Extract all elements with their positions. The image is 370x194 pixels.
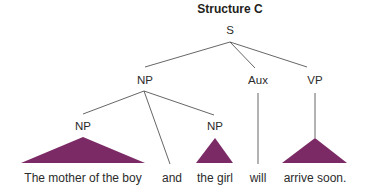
node-vp: VP [307, 74, 323, 86]
triangle-np-right [196, 138, 233, 163]
node-np-left: NP [75, 120, 91, 132]
triangle-vp [282, 138, 347, 163]
edge-np-np-right [144, 91, 214, 115]
edge-s-np [145, 42, 230, 67]
word-np-right: the girl [197, 171, 233, 185]
syntax-tree-diagram: Structure C S NP Aux VP NP NP The mother… [0, 0, 370, 194]
triangle-np-left [21, 137, 145, 163]
word-vp: arrive soon. [284, 171, 347, 185]
edge-np-and [144, 91, 170, 164]
node-s: S [226, 24, 234, 36]
diagram-title: Structure C [197, 2, 263, 16]
word-and: and [162, 171, 182, 185]
edge-np-np-left [83, 91, 144, 114]
word-np-left: The mother of the boy [24, 171, 141, 185]
node-np-right: NP [207, 120, 223, 132]
node-aux: Aux [248, 74, 268, 86]
node-np-main: NP [137, 74, 153, 86]
word-will: will [249, 171, 267, 185]
